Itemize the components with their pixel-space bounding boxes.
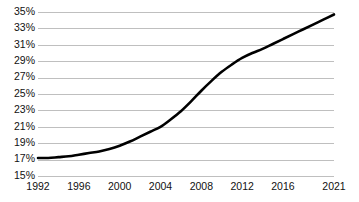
line-chart: 35%33%31%29%27%25%23%21%19%17%15% 199219…: [0, 0, 359, 202]
y-tick-label: 15%: [14, 169, 35, 181]
y-tick-label: 25%: [14, 87, 35, 99]
x-tick-label: 2008: [190, 180, 214, 192]
x-tick-label: 2004: [149, 180, 173, 192]
y-tick-label: 21%: [14, 120, 35, 132]
chart-background: [0, 0, 359, 202]
y-tick-label: 33%: [14, 21, 35, 33]
y-tick-label: 35%: [14, 5, 35, 17]
x-tick-label: 1996: [67, 180, 91, 192]
y-tick-label: 27%: [14, 70, 35, 82]
x-tick-label: 1992: [26, 180, 50, 192]
y-tick-label: 23%: [14, 103, 35, 115]
chart-canvas: 35%33%31%29%27%25%23%21%19%17%15% 199219…: [0, 0, 359, 202]
y-tick-label: 31%: [14, 38, 35, 50]
y-axis-tick-labels: 35%33%31%29%27%25%23%21%19%17%15%: [14, 5, 35, 181]
x-tick-label: 2012: [230, 180, 254, 192]
x-tick-label: 2021: [322, 180, 346, 192]
y-tick-label: 17%: [14, 152, 35, 164]
y-tick-label: 29%: [14, 54, 35, 66]
x-tick-label: 2000: [108, 180, 132, 192]
y-tick-label: 19%: [14, 136, 35, 148]
x-tick-label: 2016: [271, 180, 295, 192]
